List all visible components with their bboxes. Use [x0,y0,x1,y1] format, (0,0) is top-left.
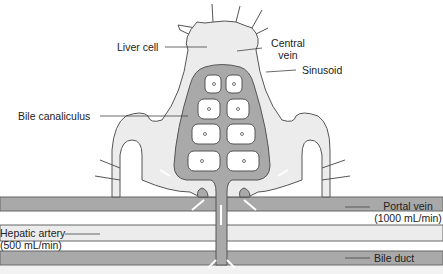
central-vein-label: Central vein [262,37,314,61]
hepatic-artery-label-line1: Hepatic artery [0,227,65,239]
portal-vein-label: Portal vein (1000 mL/min) [372,200,443,224]
bile-canaliculus-label: Bile canaliculus [18,110,90,122]
portal-vein-label-line1: Portal vein [372,200,443,212]
bottom-band [0,266,443,274]
liver-cell-label: Liver cell [117,41,158,53]
central-vein-label-line2: vein [262,49,314,61]
sinusoid-label: Sinusoid [302,64,342,76]
hepatic-artery-label: Hepatic artery (500 mL/min) [0,227,65,251]
liver-lobule-diagram [0,0,443,274]
portal-vein-label-line2: (1000 mL/min) [372,212,443,224]
hepatic-artery-label-line2: (500 mL/min) [0,239,65,251]
central-vein-label-line1: Central [262,37,314,49]
bile-duct-label: Bile duct [374,252,414,264]
